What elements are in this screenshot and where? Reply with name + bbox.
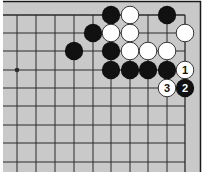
white-stone — [158, 42, 176, 60]
white-stone-body — [158, 42, 176, 60]
black-stone — [102, 6, 120, 24]
black-stone-body — [84, 24, 102, 42]
black-stone-body — [65, 42, 83, 60]
white-stone — [102, 24, 120, 42]
white-stone-body — [139, 42, 157, 60]
black-stone — [102, 61, 120, 79]
black-stone-body — [102, 6, 120, 24]
black-stone — [139, 61, 157, 79]
move-number-label: 2 — [182, 82, 188, 94]
white-stone: 1 — [176, 61, 194, 79]
black-stone — [84, 24, 102, 42]
white-stone-body — [102, 24, 120, 42]
white-stone — [121, 42, 139, 60]
go-board: 123 — [0, 0, 202, 182]
white-stone-body — [121, 24, 139, 42]
black-stone — [158, 61, 176, 79]
black-stone — [65, 42, 83, 60]
star-point — [15, 68, 20, 73]
black-stone: 2 — [176, 79, 194, 97]
white-stone-body — [121, 6, 139, 24]
white-stone — [176, 24, 194, 42]
black-stone-body — [102, 61, 120, 79]
black-stone-body — [158, 6, 176, 24]
move-number-label: 1 — [182, 64, 188, 76]
black-stone — [158, 6, 176, 24]
white-stone-body — [176, 24, 194, 42]
black-stone-body — [121, 61, 139, 79]
white-stone — [139, 42, 157, 60]
star-points — [15, 68, 20, 73]
black-stone — [102, 42, 120, 60]
black-stone-body — [102, 42, 120, 60]
white-stone — [121, 6, 139, 24]
move-number-label: 3 — [164, 82, 170, 94]
white-stone-body — [121, 42, 139, 60]
white-stone — [121, 24, 139, 42]
black-stone-body — [139, 61, 157, 79]
black-stone — [121, 61, 139, 79]
black-stone-body — [158, 61, 176, 79]
white-stone: 3 — [158, 79, 176, 97]
